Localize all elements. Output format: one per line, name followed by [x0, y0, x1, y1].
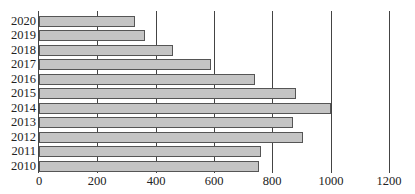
y-tick-label: 2017	[0, 58, 36, 70]
horizontal-bar-chart: 2020201920182017201620152014201320122011…	[0, 0, 415, 194]
y-tick-label: 2018	[0, 44, 36, 56]
x-tick-label: 200	[77, 174, 117, 188]
x-tick-label: 400	[136, 174, 176, 188]
bar-2015	[39, 88, 296, 99]
bar-2020	[39, 16, 135, 27]
y-tick-label: 2015	[0, 87, 36, 99]
bar-2017	[39, 59, 211, 70]
bar-2014	[39, 103, 331, 114]
bar-2011	[39, 146, 261, 157]
y-tick-label: 2019	[0, 29, 36, 41]
gridline-1200	[389, 11, 390, 173]
bar-2019	[39, 30, 145, 41]
x-tick-label: 800	[252, 174, 292, 188]
y-tick-label: 2016	[0, 73, 36, 85]
y-tick-label: 2011	[0, 145, 36, 157]
gridline-1000	[331, 11, 332, 173]
y-tick-label: 2013	[0, 116, 36, 128]
x-tick-label: 1200	[369, 174, 409, 188]
bar-2016	[39, 74, 255, 85]
y-tick-label: 2014	[0, 102, 36, 114]
bar-2013	[39, 117, 293, 128]
bar-2010	[39, 161, 259, 172]
y-tick-label: 2012	[0, 131, 36, 143]
x-tick-label: 600	[194, 174, 234, 188]
bar-2012	[39, 132, 303, 143]
y-tick-label: 2010	[0, 160, 36, 172]
x-tick-label: 0	[19, 174, 59, 188]
y-tick-label: 2020	[0, 15, 36, 27]
x-tick-label: 1000	[311, 174, 351, 188]
bar-2018	[39, 45, 173, 56]
